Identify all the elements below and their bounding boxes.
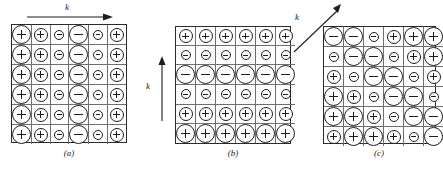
lattice-cell [276,65,295,85]
wavevector-arrow-b: k [146,55,172,123]
lattice-cell [89,105,108,125]
lattice-cell [176,46,196,65]
lattice-cell [108,125,127,144]
negative-ion-icon [261,89,271,99]
negative-ion-icon [344,47,363,66]
positive-ion-icon [216,124,235,143]
positive-ion-icon [199,107,213,121]
lattice-cell [108,25,127,45]
negative-ion-icon [93,30,103,40]
negative-ion-icon [176,65,195,84]
negative-ion-icon [69,105,88,124]
lattice-cell [69,25,89,45]
lattice-cell [324,27,344,47]
positive-ion-icon [239,29,253,43]
lattice-cell [196,124,216,143]
positive-ion-icon [239,107,253,121]
negative-ion-icon [424,127,443,146]
negative-ion-icon [93,70,103,80]
lattice-cell [404,87,424,107]
lattice-cell [176,124,196,143]
positive-ion-icon [256,124,275,143]
negative-ion-icon [69,65,88,84]
positive-ion-icon [179,29,193,43]
negative-ion-icon [54,70,64,80]
lattice-cell [89,25,108,45]
lattice-cell [51,105,70,125]
positive-ion-icon [12,65,31,84]
positive-ion-icon [34,88,48,102]
lattice-cell [364,67,384,87]
negative-ion-icon [349,72,359,82]
negative-ion-icon [93,50,103,60]
lattice-cell [236,46,256,65]
lattice-cell [276,105,295,124]
lattice-cell [216,46,236,65]
lattice-cell [256,27,276,46]
lattice-cell [236,85,256,104]
positive-ion-icon [110,88,124,102]
negative-ion-icon [54,30,64,40]
lattice-cell [216,27,236,46]
lattice-cell [424,47,443,67]
lattice-cell [424,107,443,127]
lattice-cell [256,65,276,85]
lattice-cell [384,127,404,146]
lattice-cell [12,45,32,65]
lattice-cell [32,45,51,65]
panel-caption-b: (b) [202,148,264,158]
negative-ion-icon [404,107,423,126]
lattice-cell [176,105,196,124]
lattice-cell [364,27,384,47]
lattice-cell [108,105,127,125]
lattice-cell [32,105,51,125]
negative-ion-icon [369,32,379,42]
negative-ion-icon [69,85,88,104]
negative-ion-icon [93,130,103,140]
positive-ion-icon [427,70,441,84]
lattice-cell [216,65,236,85]
lattice-cell [324,87,344,107]
positive-ion-icon [259,29,273,43]
lattice-cell [196,85,216,104]
positive-ion-icon [34,48,48,62]
negative-ion-icon [424,107,443,126]
lattice-cell [108,65,127,85]
lattice-cell [364,107,384,127]
positive-ion-icon [327,70,341,84]
lattice-cell [424,87,443,107]
positive-ion-icon [12,85,31,104]
negative-ion-icon [216,65,235,84]
lattice-cell [51,25,70,45]
negative-ion-icon [369,92,379,102]
negative-ion-icon [281,50,291,60]
positive-ion-icon [110,28,124,42]
wavevector-arrow-a: k [25,4,110,22]
lattice-cell [384,67,404,87]
positive-ion-icon [387,130,401,144]
lattice-cell [12,25,32,45]
lattice-cell [89,65,108,85]
positive-ion-icon [219,29,233,43]
lattice-cell [384,87,404,107]
negative-ion-icon [256,65,275,84]
positive-ion-icon [324,107,343,126]
lattice-cell [364,87,384,107]
positive-ion-icon [176,124,195,143]
lattice-cell [196,27,216,46]
lattice-cell [344,67,364,87]
positive-ion-icon [199,29,213,43]
arrow-up-icon [146,55,172,123]
positive-ion-icon [347,90,361,104]
positive-ion-icon [34,28,48,42]
lattice-cell [324,127,344,146]
lattice-cell [51,45,70,65]
negative-ion-icon [54,130,64,140]
lattice-cell [404,27,424,47]
negative-ion-icon [201,89,211,99]
negative-ion-icon [201,50,211,60]
negative-ion-icon [389,112,399,122]
lattice-cell [236,27,256,46]
lattice-cell [12,125,32,144]
lattice-cell [89,45,108,65]
